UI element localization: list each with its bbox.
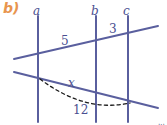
geometry-figure: b) a b c 5 3 x 12 DAE — [0, 0, 167, 125]
measure-label-5: 5 — [61, 35, 69, 47]
credit-watermark: DAE — [159, 123, 166, 125]
line-label-a: a — [33, 5, 40, 17]
dashed-measure-arc-icon — [40, 79, 130, 105]
measure-label-x: x — [68, 77, 75, 89]
line-label-b: b — [91, 5, 99, 17]
line-label-c: c — [123, 5, 130, 17]
measure-label-3: 3 — [109, 23, 117, 35]
upper-transversal-line — [14, 26, 158, 59]
part-label: b) — [3, 1, 19, 15]
measure-label-12: 12 — [73, 104, 88, 116]
